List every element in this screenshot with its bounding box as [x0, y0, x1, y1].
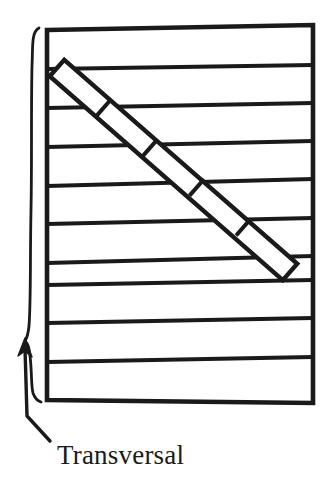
- transversal-diagram: [0, 0, 336, 487]
- figure-canvas: Transversal: [0, 0, 336, 487]
